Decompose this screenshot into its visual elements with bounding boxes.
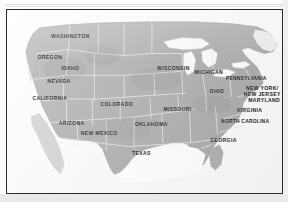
map-figure: WASHINGTON OREGON IDAHO NEVADA CALIFORNI… (0, 0, 288, 202)
map-label-washington: WASHINGTON (51, 34, 90, 40)
map-label-oklahoma: OKLAHOMA (135, 122, 168, 128)
map-label-new-mexico: NEW MEXICO (81, 132, 118, 138)
map-label-arizona: ARIZONA (59, 121, 85, 127)
map-label-maryland: MARYLAND (248, 98, 280, 104)
map-label-virginia: VIRGINIA (237, 108, 262, 114)
paper-margin-bottom (0, 194, 288, 202)
map-label-pennsylvania: PENNSYLVANIA (226, 76, 267, 82)
map-label-ohio: OHIO (210, 89, 224, 95)
map-label-wisconsin: WISCONSIN (157, 66, 190, 72)
map-label-texas: TEXAS (132, 151, 151, 157)
map-label-nevada: NEVADA (47, 79, 70, 85)
map-label-new-york-new-jersey: NEW YORK/ NEW JERSEY (244, 86, 281, 98)
map-label-colorado: COLORADO (100, 102, 133, 108)
map-label-missouri: MISSOURI (164, 107, 192, 113)
map-label-michigan: MICHIGAN (195, 70, 224, 76)
map-label-oregon: OREGON (38, 56, 63, 62)
paper-rule-lower (0, 6, 288, 7)
paper-rule-upper (0, 4, 288, 5)
paper-margin-right (283, 0, 288, 202)
map-label-idaho: IDAHO (61, 66, 79, 72)
map-label-california: CALIFORNIA (32, 96, 67, 102)
map-label-north-carolina: NORTH CAROLINA (221, 119, 269, 125)
map-frame: WASHINGTON OREGON IDAHO NEVADA CALIFORNI… (6, 9, 283, 194)
map-label-georgia: GEORGIA (210, 138, 237, 144)
